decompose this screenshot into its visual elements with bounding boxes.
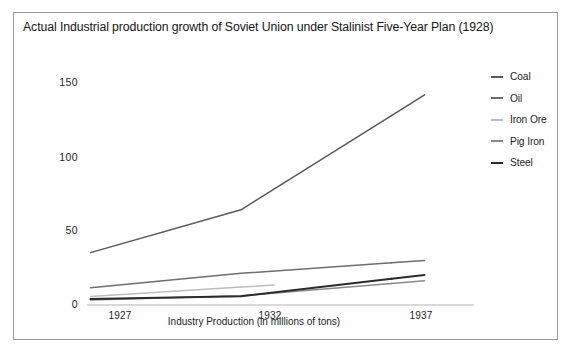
y-tick-label-150: 150 (42, 76, 78, 88)
series-line-iron-ore (91, 287, 242, 296)
y-tick-label-0: 0 (42, 298, 78, 310)
legend-item-iron-ore[interactable]: Iron Ore (491, 109, 561, 131)
legend-label-oil: Oil (510, 93, 522, 104)
legend-label-pig-iron: Pig Iron (510, 136, 544, 147)
legend-label-coal: Coal (510, 71, 531, 82)
legend-label-steel: Steel (510, 157, 533, 168)
legend-label-iron-ore: Iron Ore (510, 114, 547, 125)
x-axis-title: Industry Production (in millions of tons… (74, 316, 434, 327)
series-line-coal (91, 116, 392, 253)
chart-figure-frame: Actual Industrial production growth of S… (13, 12, 558, 340)
series-line-tail-oil (392, 261, 425, 263)
legend-item-coal[interactable]: Coal (491, 66, 561, 88)
legend-swatch-iron-ore (491, 119, 503, 121)
line-chart-svg (14, 13, 559, 341)
series-line-tail-steel (392, 275, 425, 279)
plot-area: 150 100 50 0 1927 1932 1937 Industry Pro… (14, 13, 559, 341)
y-tick-label-50: 50 (42, 224, 78, 236)
chart-legend: Coal Oil Iron Ore Pig Iron Steel (491, 66, 561, 174)
legend-item-pig-iron[interactable]: Pig Iron (491, 131, 561, 153)
series-line-tail-pig-iron (392, 281, 425, 284)
series-line-steel (91, 279, 392, 299)
legend-swatch-coal (491, 76, 503, 78)
legend-swatch-oil (491, 97, 503, 99)
legend-swatch-steel (491, 162, 503, 164)
legend-swatch-pig-iron (491, 140, 503, 142)
y-tick-label-100: 100 (42, 151, 78, 163)
legend-item-steel[interactable]: Steel (491, 152, 561, 174)
legend-item-oil[interactable]: Oil (491, 88, 561, 110)
series-layer (91, 95, 425, 300)
series-line-tail-coal (392, 95, 425, 116)
series-line-tail-iron-ore (241, 285, 274, 287)
